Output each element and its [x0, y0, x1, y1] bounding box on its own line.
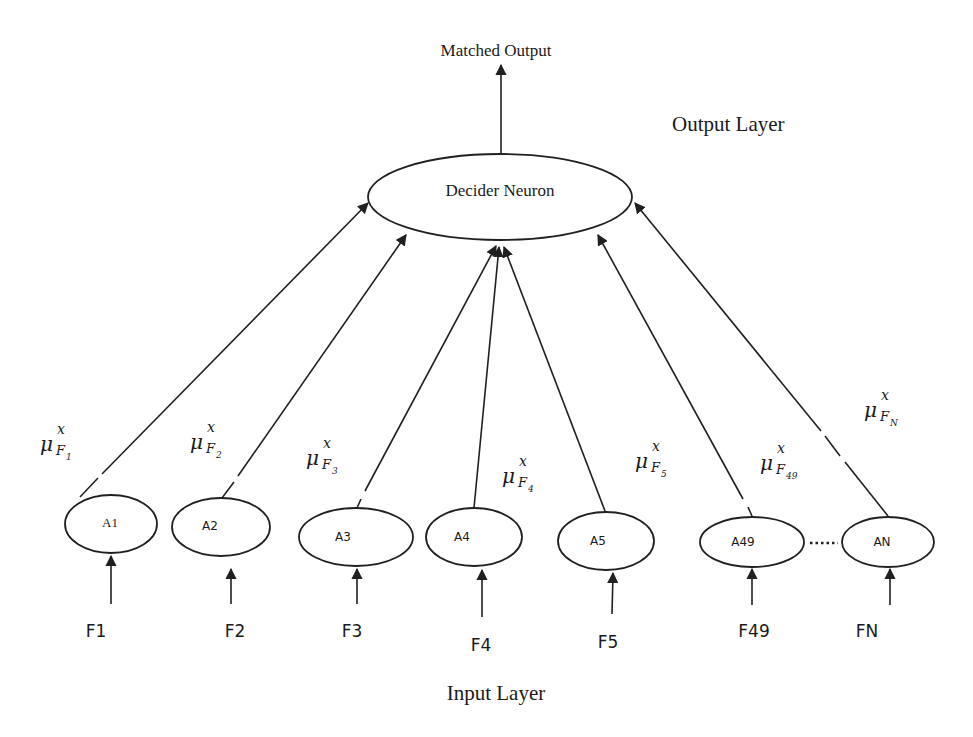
- node-an: AN: [842, 517, 934, 567]
- svg-text:μ: μ: [190, 430, 203, 454]
- decider-neuron-label: Decider Neuron: [445, 181, 555, 200]
- svg-text:F: F: [55, 443, 66, 458]
- output-layer-label: Output Layer: [672, 112, 785, 136]
- membership-label-f5: μ x F 5: [635, 438, 667, 479]
- svg-text:3: 3: [332, 466, 338, 476]
- node-a49: A49: [700, 517, 804, 567]
- node-a1-label: A1: [102, 515, 118, 530]
- membership-label-f2: μ x F 2: [190, 419, 222, 460]
- node-a4: A4: [426, 508, 522, 566]
- svg-text:x: x: [57, 421, 65, 437]
- svg-text:x: x: [519, 453, 527, 469]
- svg-text:N: N: [889, 418, 899, 428]
- input-label-f5: F5: [598, 632, 619, 652]
- svg-text:1: 1: [66, 452, 72, 462]
- matched-output-label: Matched Output: [441, 41, 552, 60]
- input-layer-label: Input Layer: [447, 681, 546, 705]
- node-a3: A3: [299, 508, 413, 566]
- membership-label-f1: μ x F 1: [40, 421, 72, 462]
- node-a2: A2: [172, 498, 270, 556]
- input-label-fn: FN: [856, 621, 879, 641]
- node-a5-label: A5: [590, 534, 606, 548]
- input-label-f49: F49: [738, 621, 769, 641]
- edge-a4: [474, 247, 499, 508]
- node-a3-label: A3: [335, 530, 351, 544]
- svg-text:4: 4: [527, 484, 534, 494]
- node-a2-label: A2: [202, 519, 218, 533]
- input-label-f2: F2: [225, 621, 246, 641]
- svg-text:μ: μ: [306, 446, 319, 470]
- svg-text:μ: μ: [40, 432, 53, 456]
- svg-text:μ: μ: [502, 464, 515, 488]
- svg-text:F: F: [205, 441, 216, 456]
- node-a4-label: A4: [454, 530, 470, 544]
- svg-text:x: x: [652, 438, 660, 454]
- neural-network-diagram: Matched Output Output Layer Decider Neur…: [0, 0, 973, 737]
- node-a49-label: A49: [731, 535, 754, 549]
- input-label-f1: F1: [86, 621, 107, 641]
- input-arrow-f5: [612, 573, 613, 614]
- svg-text:x: x: [777, 440, 785, 456]
- svg-text:x: x: [207, 419, 215, 435]
- svg-text:2: 2: [215, 450, 222, 460]
- svg-text:μ: μ: [635, 449, 648, 473]
- membership-label-f4: μ x F 4: [502, 453, 534, 494]
- svg-text:x: x: [323, 435, 331, 451]
- membership-label-f49: μ x F 49: [760, 440, 798, 481]
- svg-text:F: F: [879, 409, 890, 424]
- edge-a1: [80, 203, 368, 497]
- node-a1: A1: [65, 495, 157, 553]
- input-label-f4: F4: [471, 635, 492, 655]
- edge-a5: [504, 247, 605, 511]
- svg-text:F: F: [321, 457, 332, 472]
- svg-text:x: x: [881, 387, 889, 403]
- svg-text:F: F: [517, 475, 528, 490]
- node-an-label: AN: [873, 535, 890, 549]
- svg-text:μ: μ: [760, 451, 773, 475]
- input-label-f3: F3: [342, 621, 363, 641]
- node-a5: A5: [558, 512, 654, 570]
- membership-label-f3: μ x F 3: [306, 435, 338, 476]
- membership-label-fn: μ x F N: [864, 387, 899, 428]
- edge-a3: [357, 246, 496, 508]
- svg-text:μ: μ: [864, 398, 877, 422]
- svg-text:F: F: [650, 460, 661, 475]
- svg-text:5: 5: [661, 469, 667, 479]
- svg-text:F: F: [775, 462, 786, 477]
- decider-neuron: Decider Neuron: [368, 154, 632, 240]
- svg-text:49: 49: [785, 471, 798, 481]
- edge-a49: [598, 235, 752, 516]
